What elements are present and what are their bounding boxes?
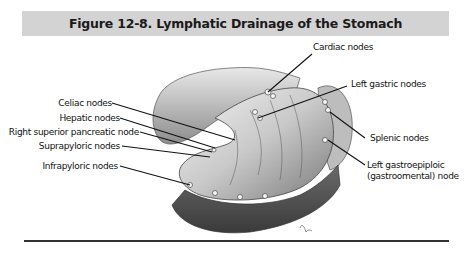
label-splenic-nodes: Splenic nodes [370, 133, 429, 143]
label-celiac-nodes: Celiac nodes [58, 98, 112, 108]
label-suprapyloric-nodes: Suprapyloric nodes [39, 141, 120, 151]
bottom-divider [24, 240, 449, 242]
label-left-gastric-nodes: Left gastric nodes [351, 79, 426, 89]
label-cardiac-nodes: Cardiac nodes [313, 42, 373, 52]
artist-signature [300, 225, 312, 232]
label-right-superior-pancreatic-node: Right superior pancreatic node [9, 127, 139, 137]
label-hepatic-nodes: Hepatic nodes [59, 113, 120, 123]
label-gastroomental-node: (gastroomental) node [367, 171, 459, 181]
label-left-gastroepiploic: Left gastroepiploic [367, 160, 444, 170]
label-infrapyloric-nodes: Infrapyloric nodes [42, 161, 118, 171]
